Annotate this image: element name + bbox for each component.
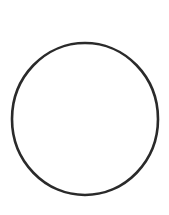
drawing-canvas: A single empty circle outline drawn in d… xyxy=(0,0,169,215)
canvas-background xyxy=(0,0,169,215)
shape-layer xyxy=(0,0,169,215)
